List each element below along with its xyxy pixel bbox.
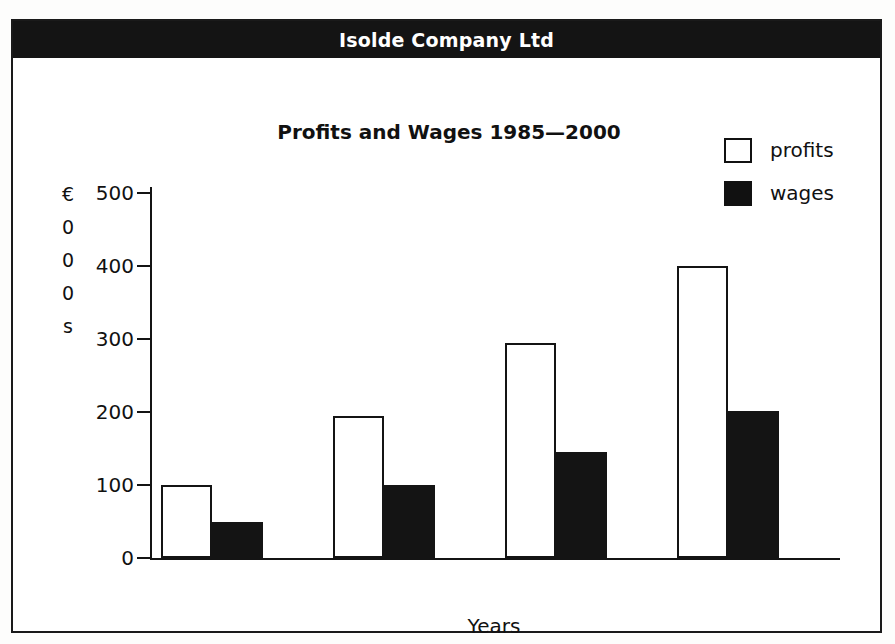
y-axis-tick [137,338,151,340]
y-axis-title-char: 0 [57,211,79,244]
y-axis-tick-label: 400 [74,254,134,278]
y-axis-tick [137,557,151,559]
bar-wages-1990 [384,485,435,558]
y-axis-tick-label: 100 [74,473,134,497]
bar-profits-2000 [677,266,728,558]
chart-title: Profits and Wages 1985—2000 [239,120,659,144]
x-axis-line [150,558,840,560]
bar-profits-1985 [161,485,212,558]
document-frame: Isolde Company Ltd Profits and Wages 198… [11,19,882,633]
scanned-page: Isolde Company Ltd Profits and Wages 198… [0,0,895,644]
x-axis-title: Years [150,614,838,638]
company-title: Isolde Company Ltd [339,29,554,51]
bar-profits-1990 [333,416,384,558]
y-axis-tick-label: 300 [74,327,134,351]
y-axis-tick-label: 200 [74,400,134,424]
document-banner: Isolde Company Ltd [13,21,880,58]
y-axis-tick [137,192,151,194]
y-axis-tick-label: 0 [74,546,134,570]
y-axis-title-char: 0 [57,277,79,310]
bar-chart: Profits and Wages 1985—2000 profits wage… [13,58,880,631]
legend-item-profits: profits [724,137,834,163]
legend-label-profits: profits [770,138,834,162]
bar-profits-1995 [505,343,556,558]
y-axis-tick [137,411,151,413]
bar-wages-2000 [728,411,779,558]
y-axis-line [150,187,152,558]
y-axis-tick [137,265,151,267]
plot-area: 0100200300400500 1985199019952000 [150,193,838,558]
bar-wages-1995 [556,452,607,558]
y-axis-tick [137,484,151,486]
y-axis-tick-label: 500 [74,181,134,205]
bar-wages-1985 [212,522,263,559]
hollow-square-icon [724,138,752,163]
